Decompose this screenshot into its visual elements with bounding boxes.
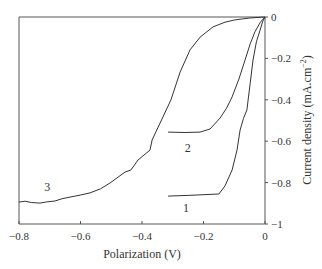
y-tick-label: −0.2 <box>271 52 291 64</box>
curve-3 <box>19 17 265 203</box>
y-axis-title: Current density (mA.cm−2) <box>299 55 314 185</box>
curve-label-1: 1 <box>183 201 189 215</box>
x-axis-title: Polarization (V) <box>103 247 181 261</box>
y-tick-label: 0 <box>271 11 277 23</box>
x-tick-label: −0.6 <box>71 230 91 242</box>
y-tick-label: −1 <box>271 218 283 230</box>
x-tick-label: −0.4 <box>132 230 152 242</box>
y-axis-title-main: Current density (mA.cm <box>300 67 314 185</box>
y-tick-label: −0.8 <box>271 177 291 189</box>
curve-label-2: 2 <box>185 141 191 155</box>
polarization-chart: −0.8−0.6−0.4−0.200−0.2−0.4−0.6−0.8−1 123… <box>0 0 322 269</box>
x-tick-label: −0.8 <box>9 230 29 242</box>
x-tick-label: 0 <box>262 230 268 242</box>
y-axis-title-superscript: −2 <box>299 59 308 68</box>
axis-ticks: −0.8−0.6−0.4−0.200−0.2−0.4−0.6−0.8−1 <box>9 11 291 242</box>
curve-2 <box>168 17 265 133</box>
y-axis-title-close: ) <box>300 55 314 59</box>
plot-frame <box>19 17 265 224</box>
curves <box>19 17 265 203</box>
curve-label-3: 3 <box>44 180 50 194</box>
x-tick-label: −0.2 <box>194 230 214 242</box>
y-tick-label: −0.4 <box>271 94 291 106</box>
y-tick-label: −0.6 <box>271 135 291 147</box>
